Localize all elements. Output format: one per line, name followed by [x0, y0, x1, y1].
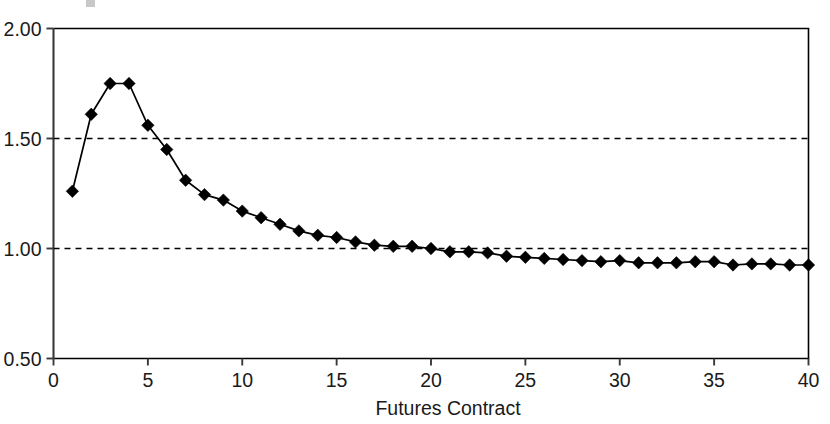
data-point-marker	[708, 256, 720, 268]
x-axis-title: Futures Contract	[375, 397, 521, 419]
data-point-marker	[406, 240, 418, 252]
data-point-marker	[444, 246, 456, 258]
plot-frame-group	[54, 29, 809, 359]
data-point-marker	[802, 259, 814, 271]
data-point-marker	[727, 259, 739, 271]
data-point-marker	[104, 77, 116, 89]
x-tick-label-1: 5	[142, 369, 153, 391]
data-point-marker	[387, 240, 399, 252]
y-tick-label-3: 2.00	[4, 18, 42, 40]
x-tick-label-0: 0	[48, 369, 59, 391]
y-axis-tick-labels-group: 0.501.001.502.00	[4, 18, 42, 370]
x-tick-label-3: 15	[326, 369, 348, 391]
chart-canvas: 0.501.001.502.00 0510152025303540 Future…	[0, 0, 830, 424]
data-point-marker	[236, 205, 248, 217]
x-tick-label-2: 10	[231, 369, 253, 391]
data-point-marker	[66, 185, 78, 197]
data-point-marker	[614, 254, 626, 266]
data-point-marker	[293, 225, 305, 237]
data-point-marker	[349, 236, 361, 248]
data-point-marker	[783, 259, 795, 271]
y-tick-label-2: 1.50	[4, 128, 42, 150]
x-tick-label-5: 25	[515, 369, 537, 391]
x-tick-label-4: 20	[420, 369, 442, 391]
data-point-marker	[670, 257, 682, 269]
x-tick-label-8: 40	[798, 369, 820, 391]
series-line-futures-curve	[72, 84, 808, 266]
data-point-marker	[255, 212, 267, 224]
series-markers-group	[66, 77, 815, 271]
x-tick-label-6: 30	[609, 369, 631, 391]
data-point-marker	[274, 218, 286, 230]
x-axis-ticks-group	[54, 359, 809, 366]
data-point-marker	[463, 246, 475, 258]
data-point-marker	[538, 252, 550, 264]
data-point-marker	[123, 77, 135, 89]
data-point-marker	[651, 257, 663, 269]
y-tick-label-0: 0.50	[4, 348, 42, 370]
data-point-marker	[746, 258, 758, 270]
cropped-label-artifact	[86, 0, 95, 7]
data-point-marker	[595, 256, 607, 268]
data-point-marker	[689, 256, 701, 268]
plot-border	[54, 29, 809, 359]
data-point-marker	[632, 257, 644, 269]
data-point-marker	[557, 253, 569, 265]
data-point-marker	[217, 194, 229, 206]
x-tick-label-7: 35	[703, 369, 725, 391]
data-point-marker	[519, 251, 531, 263]
x-axis-tick-labels-group: 0510152025303540	[48, 369, 819, 391]
data-point-marker	[500, 250, 512, 262]
y-tick-label-1: 1.00	[4, 238, 42, 260]
futures-curve-chart: 0.501.001.502.00 0510152025303540 Future…	[0, 0, 830, 424]
data-point-marker	[765, 258, 777, 270]
data-point-marker	[330, 231, 342, 243]
data-point-marker	[425, 242, 437, 254]
data-point-marker	[85, 108, 97, 120]
data-point-marker	[312, 229, 324, 241]
data-point-marker	[576, 254, 588, 266]
data-point-marker	[368, 239, 380, 251]
